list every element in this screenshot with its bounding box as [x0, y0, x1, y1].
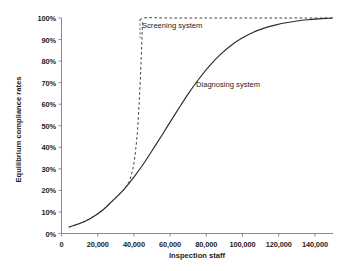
x-tick-label: 40,000 — [123, 240, 145, 249]
y-axis-title: Equilibrium compliance rates — [14, 30, 23, 230]
y-tick-label: 100% — [14, 14, 56, 23]
x-tick-label: 100,000 — [229, 240, 255, 249]
x-tick-label: 60,000 — [159, 240, 181, 249]
series-curves — [69, 18, 333, 227]
x-axis-title: Inspection staff — [61, 251, 333, 260]
chart-figure: 0%10%20%30%40%50%60%70%80%90%100% 020,00… — [0, 0, 349, 271]
y-tick-label: 0% — [14, 229, 56, 238]
series-curve-diagnosing-system — [69, 18, 333, 227]
x-tick-label: 20,000 — [87, 240, 109, 249]
series-label-diagnosing: Diagnosing system — [196, 80, 260, 89]
axis-lines — [62, 18, 334, 234]
x-tick-label: 140,000 — [302, 240, 328, 249]
series-label-screening: Screening system — [142, 21, 202, 30]
x-tick-label: 80,000 — [195, 240, 217, 249]
series-curve-screening-system — [69, 18, 333, 227]
x-tick-label: 120,000 — [266, 240, 292, 249]
x-tick-label: 0 — [59, 240, 63, 249]
